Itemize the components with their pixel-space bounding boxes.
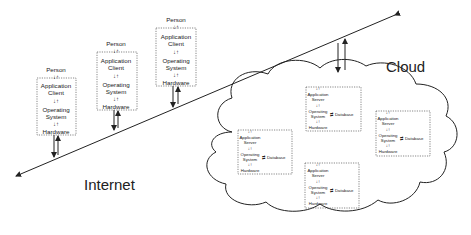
updown-arrow-icon: ↓↑ xyxy=(316,195,320,200)
hardware-label: Hardware xyxy=(309,125,328,130)
updown-arrow-icon: ↓↑ xyxy=(113,96,119,102)
updown-arrow-icon: ↓↑ xyxy=(113,48,119,54)
database-label: Database xyxy=(267,155,286,160)
cloud-label: Cloud xyxy=(386,58,425,75)
server-label: Server xyxy=(244,140,257,145)
database-label: Database xyxy=(335,188,354,193)
hardware-label: Hardware xyxy=(103,103,130,110)
updown-arrow-icon: ↓↑ xyxy=(316,86,320,91)
hardware-label: Hardware xyxy=(309,201,328,206)
updown-arrow-icon: ↓↑ xyxy=(113,73,119,79)
updown-arrow-icon: ↓↑ xyxy=(316,103,320,108)
hardware-label: Hardware xyxy=(241,168,260,173)
updown-arrow-icon: ↓↑ xyxy=(248,129,252,134)
updown-arrow-icon: ↓↑ xyxy=(173,24,179,30)
system-label: System xyxy=(46,113,67,120)
server-label: Server xyxy=(382,121,395,126)
client-stack-2: Person ↓↑ Application Client ↓↑ Operatin… xyxy=(97,40,137,110)
diagram-canvas: Internet Cloud Person ↓↑ Application Cli… xyxy=(0,0,471,235)
system-label: System xyxy=(166,64,187,71)
os-label: Operating xyxy=(102,81,130,88)
person-label: Person xyxy=(46,66,66,73)
client-label: Client xyxy=(168,40,184,47)
person-label: Person xyxy=(166,16,186,23)
updown-arrow-icon: ↓↑ xyxy=(386,143,390,148)
hardware-label: Hardware xyxy=(379,149,398,154)
client-stack-3: Person ↓↑ Application Client ↓↑ Operatin… xyxy=(156,16,196,86)
os-label: Operating xyxy=(162,57,190,64)
updown-arrow-icon: ↓↑ xyxy=(53,98,59,104)
app-label: Application xyxy=(41,82,72,89)
system-label: System xyxy=(106,88,127,95)
updown-arrow-icon: ↓↑ xyxy=(173,49,179,55)
app-label: Application xyxy=(101,57,132,64)
database-label: Database xyxy=(405,136,424,141)
app-label: Application xyxy=(161,33,192,40)
client-label: Client xyxy=(108,64,124,71)
server-label: Server xyxy=(312,97,325,102)
updown-arrow-icon: ↓↑ xyxy=(248,146,252,151)
updown-arrow-icon: ↓↑ xyxy=(316,119,320,124)
client-stack-1: Person ↓↑ Application Client ↓↑ Operatin… xyxy=(37,66,76,135)
updown-arrow-icon: ↓↑ xyxy=(53,74,59,80)
updown-arrow-icon: ↓↑ xyxy=(316,179,320,184)
hardware-label: Hardware xyxy=(43,128,70,135)
updown-arrow-icon: ↓↑ xyxy=(316,162,320,167)
updown-arrow-icon: ↓↑ xyxy=(53,121,59,127)
updown-arrow-icon: ↓↑ xyxy=(173,72,179,78)
database-label: Database xyxy=(335,112,354,117)
server-label: Server xyxy=(312,173,325,178)
updown-arrow-icon: ↓↑ xyxy=(386,127,390,132)
client-label: Client xyxy=(48,89,64,96)
updown-arrow-icon: ↓↑ xyxy=(386,110,390,115)
os-label: Operating xyxy=(42,106,70,113)
updown-arrow-icon: ↓↑ xyxy=(248,162,252,167)
hardware-label: Hardware xyxy=(163,79,190,86)
internet-label: Internet xyxy=(84,176,136,193)
person-label: Person xyxy=(106,40,126,47)
